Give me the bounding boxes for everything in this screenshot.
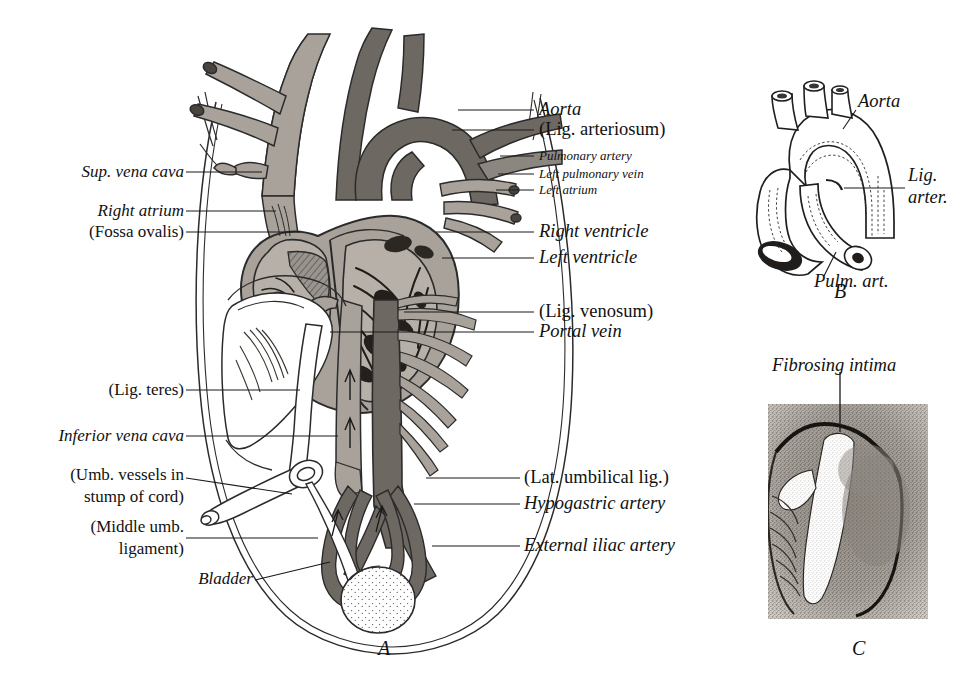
label-lig-venosum: (Lig. venosum) bbox=[539, 302, 653, 321]
aorta-and-pulmonary bbox=[336, 28, 562, 206]
label-fossa-ovalis: (Fossa ovalis) bbox=[0, 223, 184, 241]
label-b-pulm-art: Pulm. art. bbox=[814, 272, 889, 291]
label-b-aorta: Aorta bbox=[858, 92, 900, 111]
label-lig-arteriosum: (Lig. arteriosum) bbox=[539, 120, 665, 139]
panel-letter-c: C bbox=[852, 638, 865, 659]
label-left-atrium: Left atrium bbox=[539, 183, 597, 197]
label-right-atrium: Right atrium bbox=[0, 202, 184, 220]
label-b-lig-arter-line1: Lig. bbox=[908, 166, 937, 185]
label-umb-vessels-line2: stump of cord) bbox=[0, 488, 184, 506]
bladder bbox=[341, 566, 415, 633]
label-aorta: Aorta bbox=[539, 100, 581, 119]
label-left-pulmonary-vein: Left pulmonary vein bbox=[539, 167, 644, 181]
label-c-fibrosing-intima: Fibrosing intima bbox=[772, 356, 896, 375]
label-middle-umb-line1: (Middle umb. bbox=[0, 518, 184, 536]
label-inferior-vena-cava: Inferior vena cava bbox=[0, 427, 184, 445]
label-middle-umb-line2: ligament) bbox=[0, 540, 184, 558]
label-portal-vein: Portal vein bbox=[539, 322, 622, 341]
label-sup-vena-cava: Sup. vena cava bbox=[0, 163, 184, 181]
label-external-iliac-artery: External iliac artery bbox=[524, 536, 675, 555]
label-b-lig-arter-line2: arter. bbox=[908, 188, 948, 207]
label-right-ventricle: Right ventricle bbox=[539, 222, 648, 241]
label-lig-teres: (Lig. teres) bbox=[0, 381, 184, 399]
label-bladder: Bladder bbox=[0, 570, 253, 588]
label-umb-vessels-line1: (Umb. vessels in bbox=[0, 466, 184, 484]
label-pulmonary-artery: Pulmonary artery bbox=[539, 149, 632, 163]
panel-c-artwork bbox=[768, 372, 928, 619]
label-left-ventricle: Left ventricle bbox=[539, 248, 637, 267]
label-lat-umbilical-lig: (Lat. umbilical lig.) bbox=[524, 468, 669, 487]
label-hypogastric-artery: Hypogastric artery bbox=[524, 494, 665, 513]
panel-letter-a: A bbox=[378, 638, 390, 659]
anatomical-figure: Sup. vena cava Right atrium (Fossa ovali… bbox=[0, 0, 964, 688]
